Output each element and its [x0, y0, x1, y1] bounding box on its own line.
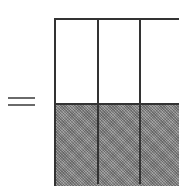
column-divider-2	[139, 20, 141, 184]
equals-bar-top	[8, 97, 35, 99]
equals-bar-bottom	[8, 104, 35, 106]
column-divider-1	[97, 20, 99, 184]
unshaded-row	[56, 20, 179, 103]
equals-sign	[8, 97, 35, 105]
fraction-grid	[54, 18, 179, 186]
shaded-row	[56, 103, 179, 186]
